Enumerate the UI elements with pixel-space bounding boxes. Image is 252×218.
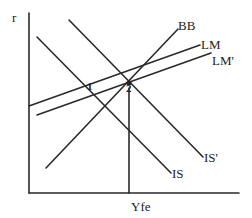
lm-prime-curve xyxy=(37,53,211,115)
is-prime-label: IS' xyxy=(204,150,218,165)
lm-prime-label: LM' xyxy=(212,53,234,68)
is-lm-bb-diagram: r IS IS' LM LM' BB Yfe 1 2 xyxy=(0,0,252,218)
point-2-label: 2 xyxy=(126,82,132,94)
lm-label: LM xyxy=(201,37,221,52)
bb-label: BB xyxy=(178,18,196,33)
is-label: IS xyxy=(172,166,184,181)
y-axis-label: r xyxy=(12,10,17,25)
yfe-label: Yfe xyxy=(131,199,151,214)
point-1-label: 1 xyxy=(87,80,93,92)
bb-curve xyxy=(46,29,178,168)
